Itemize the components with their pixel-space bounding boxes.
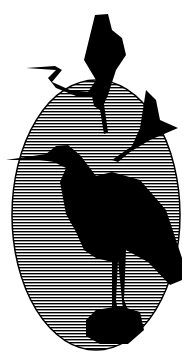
heron-illustration [0,0,191,355]
